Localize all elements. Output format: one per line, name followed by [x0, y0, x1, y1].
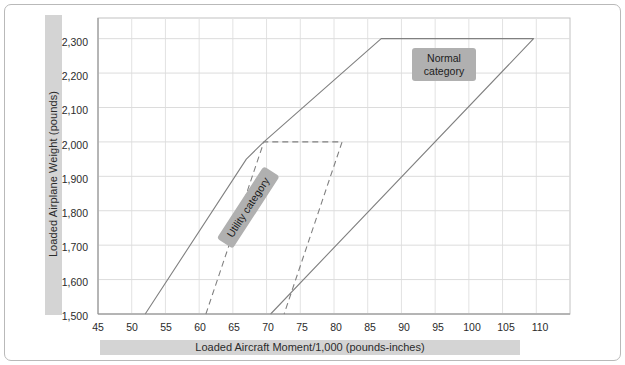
- envelope-plot: [0, 0, 625, 365]
- normal-category-label-line2: category: [424, 65, 464, 77]
- normal-category-label-line1: Normal: [427, 52, 461, 64]
- normal-category-label: Normal category: [412, 48, 476, 81]
- weight-and-balance-envelope-figure: Loaded Airplane Weight (pounds) Loaded A…: [0, 0, 625, 365]
